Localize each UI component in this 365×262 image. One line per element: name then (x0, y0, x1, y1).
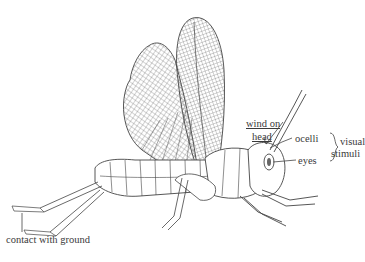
label-head: head (252, 131, 272, 142)
label-wind-on: wind on (246, 118, 280, 129)
label-stimuli: stimuli (331, 148, 360, 159)
label-eyes: eyes (298, 155, 317, 166)
label-contact-with-ground: contact with ground (6, 234, 90, 245)
label-ocelli: ocelli (295, 133, 318, 144)
label-visual: visual (340, 136, 365, 147)
